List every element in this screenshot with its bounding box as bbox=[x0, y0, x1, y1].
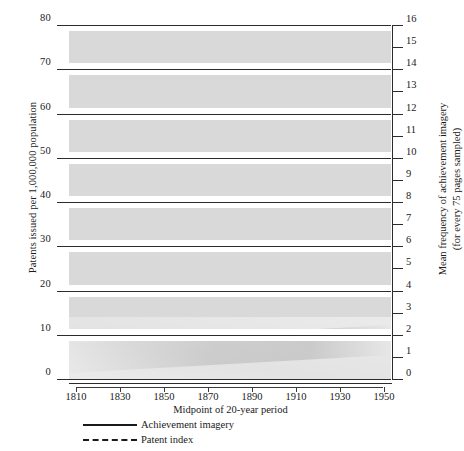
legend-swatch-solid-line-icon bbox=[83, 424, 137, 426]
legend-swatch-dashed-line-icon bbox=[83, 439, 137, 441]
right-tick-label: 2 bbox=[406, 323, 422, 334]
right-tick-mark bbox=[392, 313, 403, 314]
left-tick-label: 80 bbox=[25, 12, 51, 23]
right-tick-mark bbox=[392, 335, 403, 336]
right-tick-mark bbox=[392, 25, 403, 26]
gridline bbox=[57, 158, 391, 159]
x-tick-label: 1950 bbox=[364, 391, 404, 402]
right-tick-label: 11 bbox=[406, 124, 422, 135]
right-tick-mark bbox=[392, 47, 403, 48]
x-axis-tick-rail bbox=[77, 387, 383, 388]
right-tick-label: 6 bbox=[406, 234, 422, 245]
right-tick-mark bbox=[392, 379, 403, 380]
legend-item-patent-index: Patent index bbox=[83, 432, 234, 447]
right-tick-mark bbox=[392, 224, 403, 225]
x-axis-rail-cap bbox=[76, 387, 77, 392]
right-tick-mark bbox=[392, 114, 403, 115]
right-tick-mark bbox=[392, 268, 403, 269]
right-tick-label: 16 bbox=[406, 13, 422, 24]
right-tick-label: 12 bbox=[406, 102, 422, 113]
right-axis-title-line1: Mean frequency of achievement imagery bbox=[436, 39, 450, 339]
x-tick-label: 1870 bbox=[188, 391, 228, 402]
right-tick-label: 14 bbox=[406, 57, 422, 68]
right-tick-mark bbox=[392, 69, 403, 70]
x-tick-label: 1850 bbox=[144, 391, 184, 402]
x-tick-label: 1890 bbox=[232, 391, 272, 402]
left-axis-title: Patents issued per 1,000,000 population bbox=[27, 38, 38, 338]
right-tick-mark bbox=[392, 91, 403, 92]
x-tick-label: 1910 bbox=[276, 391, 316, 402]
right-tick-mark bbox=[392, 202, 403, 203]
right-tick-label: 1 bbox=[406, 345, 422, 356]
right-tick-label: 10 bbox=[406, 146, 422, 157]
right-axis-title: Mean frequency of achievement imagery (f… bbox=[436, 39, 464, 339]
gridline bbox=[57, 335, 391, 336]
x-axis-title: Midpoint of 20-year period bbox=[69, 404, 392, 415]
gridline bbox=[57, 69, 391, 70]
right-tick-mark bbox=[392, 291, 403, 292]
right-tick-label: 0 bbox=[406, 367, 422, 378]
right-tick-mark bbox=[392, 136, 403, 137]
right-tick-label: 3 bbox=[406, 301, 422, 312]
right-tick-mark bbox=[392, 158, 403, 159]
legend-item-achievement-imagery: Achievement imagery bbox=[83, 417, 234, 432]
legend-label: Patent index bbox=[141, 434, 193, 445]
right-tick-label: 4 bbox=[406, 279, 422, 290]
right-tick-label: 5 bbox=[406, 256, 422, 267]
x-tick-label: 1830 bbox=[100, 391, 140, 402]
right-tick-label: 13 bbox=[406, 79, 422, 90]
right-tick-label: 7 bbox=[406, 212, 422, 223]
legend: Achievement imagery Patent index bbox=[83, 417, 234, 447]
gridline bbox=[57, 246, 391, 247]
right-tick-label: 9 bbox=[406, 168, 422, 179]
right-tick-mark bbox=[392, 180, 403, 181]
x-tick-label: 1930 bbox=[320, 391, 360, 402]
right-tick-mark bbox=[392, 246, 403, 247]
right-tick-label: 15 bbox=[406, 35, 422, 46]
right-axis-title-line2: (for every 75 pages sampled) bbox=[450, 39, 464, 339]
gridline bbox=[57, 114, 391, 115]
x-axis-rail-cap bbox=[384, 387, 385, 392]
gridline bbox=[57, 202, 391, 203]
gridline bbox=[57, 25, 391, 26]
legend-label: Achievement imagery bbox=[141, 419, 234, 430]
x-axis-line bbox=[69, 383, 392, 384]
right-tick-label: 8 bbox=[406, 190, 422, 201]
left-tick-label: 0 bbox=[25, 366, 51, 377]
right-tick-mark bbox=[392, 357, 403, 358]
x-tick-label: 1810 bbox=[56, 391, 96, 402]
gridline bbox=[57, 379, 391, 380]
gridline bbox=[57, 291, 391, 292]
